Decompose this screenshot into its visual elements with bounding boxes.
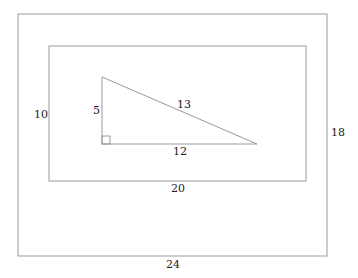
right-angle-marker	[102, 136, 110, 144]
inner-width-label: 20	[171, 182, 185, 195]
outer-height-label: 18	[331, 126, 345, 139]
outer-width-label: 24	[166, 258, 180, 271]
inner-height-label: 10	[34, 108, 48, 121]
triangle-hypotenuse-label: 13	[177, 98, 191, 111]
geometry-diagram: 18 24 10 20 5 12 13	[0, 0, 358, 278]
triangle-horizontal-leg-label: 12	[173, 145, 187, 158]
triangle-vertical-leg-label: 5	[93, 104, 100, 117]
outer-rectangle	[18, 14, 327, 256]
inner-rectangle	[49, 46, 306, 181]
